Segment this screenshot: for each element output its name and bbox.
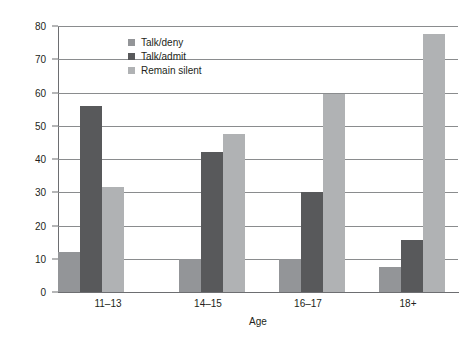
y-tick-label: 70 bbox=[10, 54, 46, 65]
bar-group bbox=[258, 26, 358, 292]
legend: Talk/denyTalk/admitRemain silent bbox=[128, 36, 258, 78]
legend-label: Talk/admit bbox=[141, 51, 186, 62]
bar-admit bbox=[80, 106, 102, 292]
bar-admit bbox=[301, 192, 323, 292]
x-axis-line bbox=[58, 292, 459, 293]
y-tick-label: 0 bbox=[10, 287, 46, 298]
bar-deny bbox=[379, 267, 401, 292]
bar-chart: Percent 01020304050607080 11–1314–1516–1… bbox=[0, 0, 476, 339]
y-tick-label: 20 bbox=[10, 220, 46, 231]
y-tick-label: 80 bbox=[10, 21, 46, 32]
plot-area bbox=[58, 26, 458, 292]
bar-deny bbox=[179, 259, 201, 292]
bar-admit bbox=[401, 240, 423, 292]
bar-group bbox=[358, 26, 458, 292]
bar-silent bbox=[223, 134, 245, 292]
bar-deny bbox=[279, 259, 301, 292]
legend-swatch-icon bbox=[128, 67, 135, 74]
y-tick-label: 60 bbox=[10, 87, 46, 98]
legend-swatch-icon bbox=[128, 39, 135, 46]
y-axis-ticks: 01020304050607080 bbox=[0, 26, 58, 292]
bar-deny bbox=[58, 252, 80, 292]
y-tick-label: 30 bbox=[10, 187, 46, 198]
x-tick-label: 14–15 bbox=[158, 298, 258, 309]
bar-silent bbox=[323, 94, 345, 292]
legend-swatch-icon bbox=[128, 53, 135, 60]
legend-item: Talk/admit bbox=[128, 50, 258, 63]
bar-silent bbox=[423, 34, 445, 292]
legend-item: Talk/deny bbox=[128, 36, 258, 49]
x-tick-label: 18+ bbox=[358, 298, 458, 309]
x-axis-title: Age bbox=[58, 316, 458, 327]
legend-item: Remain silent bbox=[128, 64, 258, 77]
x-tick-label: 16–17 bbox=[258, 298, 358, 309]
legend-label: Talk/deny bbox=[141, 37, 183, 48]
y-tick-label: 10 bbox=[10, 253, 46, 264]
x-tick-label: 11–13 bbox=[58, 298, 158, 309]
y-tick-label: 50 bbox=[10, 120, 46, 131]
bar-admit bbox=[201, 152, 223, 292]
bar-silent bbox=[102, 187, 124, 292]
legend-label: Remain silent bbox=[141, 65, 202, 76]
y-tick-label: 40 bbox=[10, 154, 46, 165]
